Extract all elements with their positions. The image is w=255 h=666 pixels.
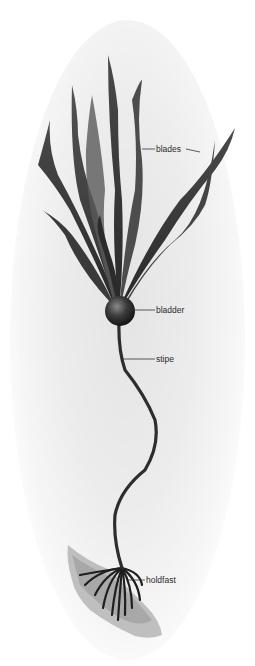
label-bladder: bladder bbox=[156, 306, 184, 315]
bladder-shape bbox=[105, 296, 135, 326]
label-stipe: stipe bbox=[156, 355, 174, 364]
leader-line-blades-right bbox=[186, 149, 200, 152]
label-holdfast: holdfast bbox=[146, 576, 176, 585]
label-blades: blades bbox=[156, 145, 181, 154]
kelp-diagram: blades bladder stipe holdfast bbox=[0, 0, 255, 666]
stipe-shape bbox=[115, 320, 157, 568]
kelp-illustration bbox=[0, 0, 255, 666]
blades-shape bbox=[38, 55, 235, 304]
